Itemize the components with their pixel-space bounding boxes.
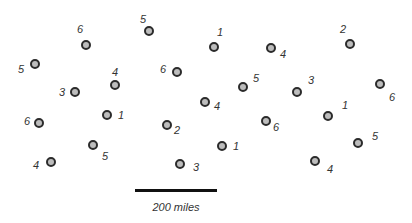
point-label: 4 (280, 49, 286, 60)
point-label: 4 (214, 101, 220, 112)
point-label: 1 (342, 100, 348, 111)
point-label: 6 (24, 116, 30, 127)
point-label: 1 (233, 141, 239, 152)
map-point (209, 42, 219, 52)
map-point (81, 40, 91, 50)
map-point (70, 87, 80, 97)
point-label: 4 (112, 67, 118, 78)
map-point (323, 111, 333, 121)
point-label: 6 (389, 92, 395, 103)
scale-label: 200 miles (152, 201, 199, 213)
map-point (162, 120, 172, 130)
map-point (266, 43, 276, 53)
point-label: 6 (273, 122, 279, 133)
point-label: 1 (118, 110, 124, 121)
map-point (200, 97, 210, 107)
map-point (110, 80, 120, 90)
map-point (238, 82, 248, 92)
map-point (310, 156, 320, 166)
map-point (292, 87, 302, 97)
point-label: 3 (193, 162, 199, 173)
point-label: 4 (33, 160, 39, 171)
map-point (175, 159, 185, 169)
point-label: 3 (59, 87, 65, 98)
point-label: 5 (372, 131, 378, 142)
point-label: 2 (340, 24, 346, 35)
scale-bar (135, 189, 217, 192)
point-label: 6 (77, 24, 83, 35)
map-point (88, 140, 98, 150)
map-point (353, 138, 363, 148)
point-label: 5 (253, 73, 259, 84)
map-point (144, 26, 154, 36)
point-label: 2 (174, 125, 180, 136)
map-point (345, 39, 355, 49)
point-label: 4 (327, 164, 333, 175)
point-label: 6 (160, 64, 166, 75)
map-point (217, 141, 227, 151)
map-point (375, 79, 385, 89)
point-label: 5 (18, 64, 24, 75)
map-point (261, 116, 271, 126)
map-point (102, 110, 112, 120)
map-point (34, 118, 44, 128)
map-point (30, 59, 40, 69)
map-point (46, 157, 56, 167)
point-label: 5 (102, 151, 108, 162)
point-label: 1 (217, 27, 223, 38)
map-point (172, 67, 182, 77)
point-label: 5 (140, 14, 146, 25)
point-label: 3 (308, 75, 314, 86)
